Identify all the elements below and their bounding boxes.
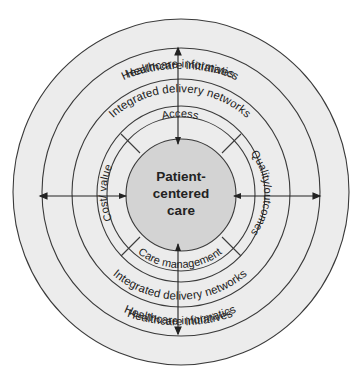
center-line-1: Patient- [156, 169, 206, 184]
center-line-3: care [167, 203, 195, 218]
center-line-2: centered [153, 186, 209, 201]
diagram-canvas: Healthcare initiatives Healthcare inform… [0, 0, 360, 374]
patient-centered-care-diagram: Healthcare initiatives Healthcare inform… [0, 0, 360, 374]
